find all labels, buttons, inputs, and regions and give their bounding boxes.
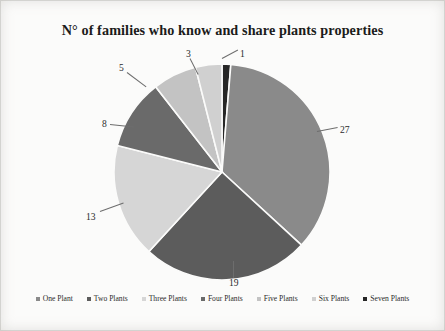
chart-legend: One PlantTwo PlantsThree PlantsFour Plan… [0,294,445,303]
legend-label: Three Plants [149,294,187,303]
legend-label: Seven Plants [370,294,409,303]
pie-chart-figure: N° of families who know and share plants… [0,0,445,331]
chart-title: N° of families who know and share plants… [0,22,445,39]
data-label-8: 8 [102,118,107,129]
legend-label: Four Plants [208,294,243,303]
legend-label: Two Plants [94,294,128,303]
legend-swatch-icon [142,297,146,301]
legend-label: Five Plants [264,294,298,303]
legend-swatch-icon [257,297,261,301]
legend-label: Six Plants [319,294,350,303]
legend-item-six-plants[interactable]: Six Plants [312,294,350,303]
pie-graphic [112,62,332,282]
legend-item-seven-plants[interactable]: Seven Plants [363,294,409,303]
data-label-1: 1 [240,48,245,59]
scanned-page: N° of families who know and share plants… [0,0,445,331]
leader-line-1 [222,50,238,59]
legend-item-one-plant[interactable]: One Plant [36,294,73,303]
leader-line-19 [233,261,234,278]
legend-swatch-icon [201,297,205,301]
data-label-13: 13 [86,211,96,222]
pie-slices [114,64,330,280]
data-label-5: 5 [119,62,124,73]
legend-item-three-plants[interactable]: Three Plants [142,294,187,303]
data-label-27: 27 [340,124,350,135]
data-label-3: 3 [186,48,191,59]
legend-swatch-icon [363,297,367,301]
data-label-19: 19 [229,277,239,288]
legend-swatch-icon [312,297,316,301]
legend-swatch-icon [36,297,40,301]
pie-svg [112,62,332,282]
legend-label: One Plant [43,294,73,303]
legend-item-five-plants[interactable]: Five Plants [257,294,298,303]
legend-item-two-plants[interactable]: Two Plants [87,294,128,303]
legend-item-four-plants[interactable]: Four Plants [201,294,243,303]
legend-swatch-icon [87,297,91,301]
